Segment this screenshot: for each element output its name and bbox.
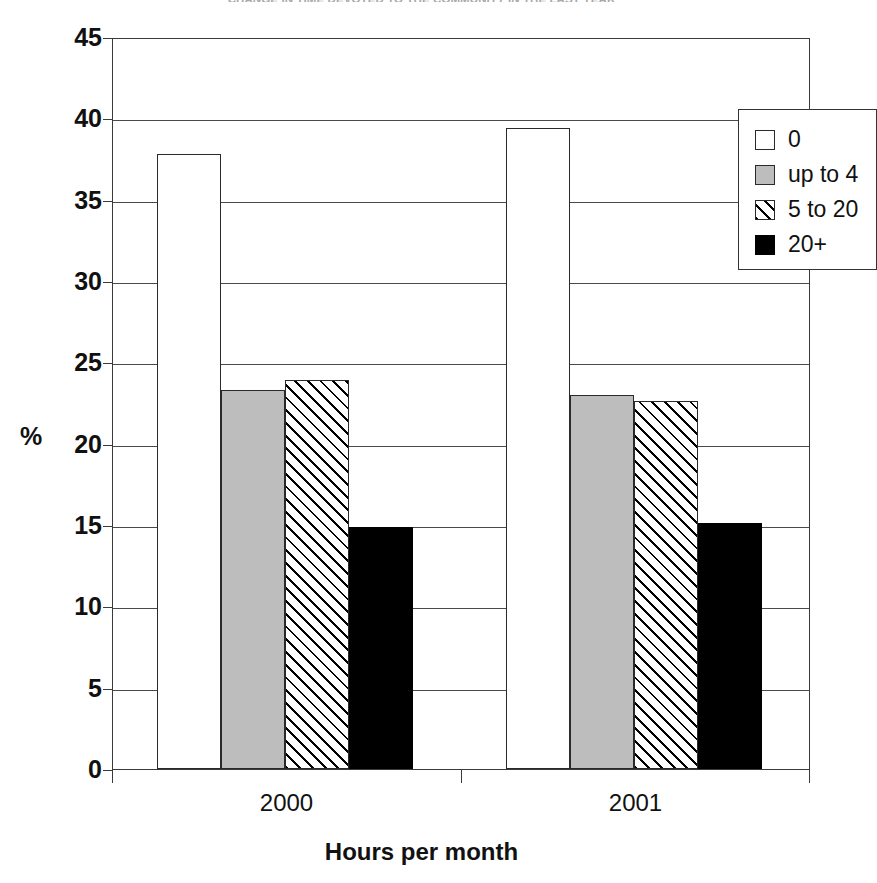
y-tick-label: 15 bbox=[56, 513, 102, 538]
x-axis-title: Hours per month bbox=[0, 838, 843, 866]
chart-legend: 0up to 45 to 2020+ bbox=[738, 109, 877, 270]
y-tick-mark bbox=[103, 119, 112, 120]
bar bbox=[285, 380, 349, 769]
bar bbox=[349, 527, 413, 769]
legend-swatch-white bbox=[755, 130, 775, 150]
y-tick-label: 35 bbox=[56, 188, 102, 213]
legend-item: 5 to 20 bbox=[755, 192, 876, 227]
bar bbox=[570, 395, 634, 769]
legend-label: 0 bbox=[788, 128, 801, 151]
y-tick-label: 10 bbox=[56, 594, 102, 619]
y-tick-label: 25 bbox=[56, 350, 102, 375]
y-tick-label: 5 bbox=[56, 676, 102, 701]
legend-label: 5 to 20 bbox=[788, 198, 858, 221]
gridline bbox=[113, 120, 809, 121]
y-tick-mark bbox=[103, 526, 112, 527]
y-tick-label: 45 bbox=[56, 25, 102, 50]
y-tick-label: 30 bbox=[56, 269, 102, 294]
y-tick-label: 40 bbox=[56, 106, 102, 131]
y-axis-tick-labels: 051015202530354045 bbox=[44, 38, 102, 770]
bar bbox=[506, 128, 570, 769]
x-tick-mark bbox=[809, 770, 810, 783]
bar bbox=[698, 523, 762, 769]
y-tick-mark bbox=[103, 607, 112, 608]
legend-label: up to 4 bbox=[788, 163, 858, 186]
y-tick-mark bbox=[103, 363, 112, 364]
chart-title: CHANGE IN TIME DEVOTED TO THE COMMUNITY … bbox=[0, 0, 843, 2]
y-tick-label: 20 bbox=[56, 432, 102, 457]
legend-swatch-gray bbox=[755, 165, 775, 185]
legend-swatch-hatch bbox=[755, 200, 775, 220]
legend-item: up to 4 bbox=[755, 157, 876, 192]
y-tick-mark bbox=[103, 282, 112, 283]
y-tick-mark bbox=[103, 445, 112, 446]
y-tick-mark bbox=[103, 689, 112, 690]
bar bbox=[157, 154, 221, 769]
y-tick-mark bbox=[103, 201, 112, 202]
bar bbox=[221, 390, 285, 769]
y-tick-label: 0 bbox=[56, 757, 102, 782]
x-category-label: 2001 bbox=[609, 789, 662, 817]
legend-item: 20+ bbox=[755, 227, 876, 262]
legend-label: 20+ bbox=[788, 233, 827, 256]
x-axis-ticks bbox=[112, 770, 810, 784]
plot-area: 0up to 45 to 2020+ bbox=[112, 38, 810, 770]
x-category-label: 2000 bbox=[260, 789, 313, 817]
legend-swatch-black bbox=[755, 235, 775, 255]
legend-item: 0 bbox=[755, 122, 876, 157]
y-tick-mark bbox=[103, 38, 112, 39]
x-tick-mark bbox=[112, 770, 113, 783]
bar bbox=[634, 401, 698, 769]
x-tick-mark bbox=[461, 770, 462, 783]
y-tick-mark bbox=[103, 770, 112, 771]
y-axis-title: % bbox=[20, 422, 42, 451]
